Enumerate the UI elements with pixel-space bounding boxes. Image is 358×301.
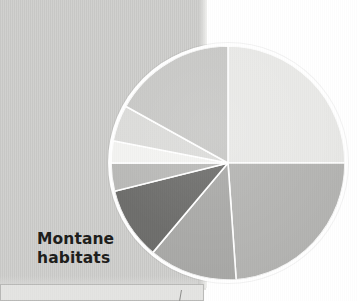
lower-figure-inset [0, 284, 204, 301]
pie-slice [228, 163, 345, 280]
pie-slices [111, 46, 345, 280]
pie-svg [111, 46, 345, 280]
pie-slice-group [111, 46, 345, 280]
pie-slice [228, 46, 345, 163]
figure-canvas: Montane habitats [0, 0, 358, 301]
chart-caption: Montane habitats [37, 230, 114, 268]
pie-chart [108, 43, 358, 293]
